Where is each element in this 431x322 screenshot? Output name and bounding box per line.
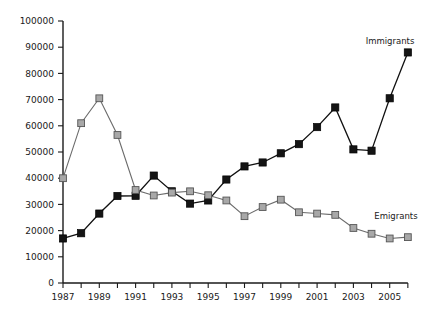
series-label-immigrants: Immigrants [366,36,415,46]
data-point-marker-emigrants [60,175,67,182]
data-point-marker-emigrants [150,192,157,199]
data-point-marker-immigrants [314,124,321,131]
x-tick-label: 1999 [269,292,292,302]
y-tick-label: 60000 [25,121,54,131]
data-point-marker-immigrants [96,210,103,217]
y-tick-label: 80000 [25,69,54,79]
data-point-marker-emigrants [259,204,266,211]
data-point-marker-emigrants [132,187,139,194]
x-tick-label: 1987 [52,292,75,302]
x-tick-label: 1997 [233,292,256,302]
data-point-marker-immigrants [259,159,266,166]
y-tick-label: 50000 [25,147,54,157]
data-point-marker-emigrants [350,225,357,232]
data-point-marker-immigrants [404,49,411,56]
data-point-marker-immigrants [78,230,85,237]
data-point-marker-immigrants [114,192,121,199]
y-tick-label: 40000 [25,173,54,183]
data-point-marker-immigrants [332,104,339,111]
data-point-marker-emigrants [277,196,284,203]
x-tick-label: 1993 [160,292,183,302]
series-labels: ImmigrantsEmigrants [366,36,419,221]
chart-canvas: 0100002000030000400005000060000700008000… [0,0,431,322]
y-tick-label: 20000 [25,226,54,236]
series-label-emigrants: Emigrants [374,211,418,221]
data-point-marker-emigrants [169,189,176,196]
y-tick-label: 10000 [25,252,54,262]
data-point-marker-emigrants [114,132,121,139]
data-point-marker-emigrants [368,230,375,237]
data-point-marker-immigrants [223,176,230,183]
data-point-marker-immigrants [59,235,66,242]
y-tick-label: 70000 [25,95,54,105]
x-axis: 1987198919911993199519971999200120032005 [52,283,408,302]
series-line-emigrants [63,98,408,238]
data-point-marker-immigrants [368,147,375,154]
data-point-marker-emigrants [205,192,212,199]
x-tick-label: 1995 [197,292,220,302]
data-point-marker-emigrants [223,197,230,204]
data-point-marker-emigrants [332,211,339,218]
y-tick-label: 30000 [25,200,54,210]
data-point-marker-immigrants [350,146,357,153]
data-point-marker-emigrants [386,235,393,242]
y-axis: 0100002000030000400005000060000700008000… [20,16,63,288]
data-point-marker-emigrants [78,120,85,127]
data-point-marker-emigrants [96,95,103,102]
x-tick-label: 2003 [342,292,365,302]
data-point-marker-emigrants [314,210,321,217]
data-point-marker-immigrants [150,172,157,179]
data-point-marker-immigrants [386,95,393,102]
x-tick-label: 1991 [124,292,147,302]
data-point-marker-emigrants [187,188,194,195]
x-tick-label: 1989 [88,292,111,302]
y-tick-label: 100000 [20,16,55,26]
data-point-marker-immigrants [295,141,302,148]
data-point-marker-emigrants [296,209,303,216]
y-tick-label: 0 [48,278,54,288]
x-tick-label: 2001 [306,292,329,302]
chart-series [59,49,411,242]
y-tick-label: 90000 [25,42,54,52]
data-point-marker-immigrants [277,150,284,157]
data-point-marker-emigrants [404,234,411,241]
data-point-marker-immigrants [186,200,193,207]
line-chart-migration: 0100002000030000400005000060000700008000… [0,0,431,322]
x-tick-label: 2005 [378,292,401,302]
data-point-marker-immigrants [241,163,248,170]
data-point-marker-emigrants [241,213,248,220]
